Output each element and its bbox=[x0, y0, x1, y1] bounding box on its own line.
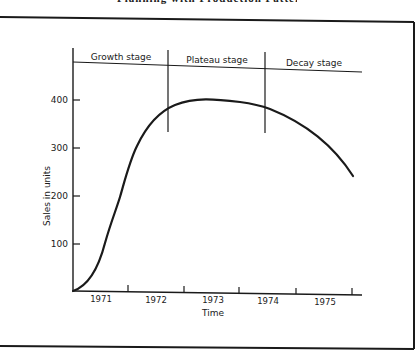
y-ticks: 100 200 300 400 bbox=[51, 95, 80, 249]
stage-band: Growth stage Plateau stage Decay stage bbox=[73, 50, 362, 133]
x-tick-label: 1973 bbox=[202, 295, 224, 305]
x-tick-label: 1975 bbox=[314, 297, 336, 307]
y-tick-label: 300 bbox=[51, 143, 68, 153]
stage-label-decay: Decay stage bbox=[286, 58, 343, 68]
y-tick-label: 100 bbox=[51, 239, 68, 249]
product-life-cycle-chart: 100 200 300 400 1971 1972 1973 1974 1975… bbox=[0, 0, 419, 354]
x-ticks: 1971 1972 1973 1974 1975 bbox=[90, 285, 352, 307]
axes bbox=[73, 48, 362, 295]
y-tick-label: 200 bbox=[51, 191, 68, 201]
x-tick-label: 1971 bbox=[90, 294, 112, 304]
stage-label-growth: Growth stage bbox=[91, 52, 152, 62]
stage-label-plateau: Plateau stage bbox=[186, 55, 248, 65]
x-tick-label: 1972 bbox=[145, 295, 167, 305]
sales-curve bbox=[73, 99, 353, 291]
y-axis-label: Sales in units bbox=[42, 166, 52, 226]
x-axis-label: Time bbox=[201, 308, 224, 318]
y-tick-label: 400 bbox=[51, 95, 68, 105]
x-tick-label: 1974 bbox=[257, 296, 279, 306]
